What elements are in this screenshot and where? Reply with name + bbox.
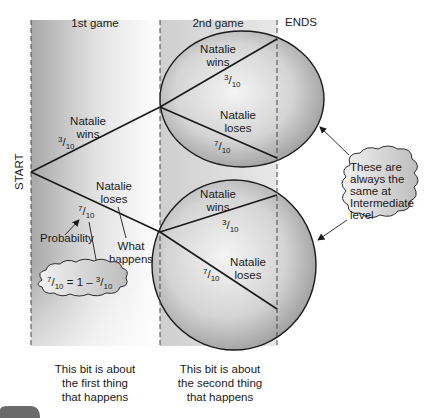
caption-second: This bit is about the second thing that … <box>160 362 280 404</box>
header-second-game: 2nd game <box>192 17 243 29</box>
first-loses-label: Natalie <box>96 180 132 192</box>
svg-text:Intermediate: Intermediate <box>350 197 414 209</box>
bottom-loses-label: Natalie <box>230 256 266 268</box>
svg-text:These are: These are <box>350 161 402 173</box>
second-game-top-ellipse <box>160 31 324 167</box>
top-wins-label-2: wins <box>205 56 229 68</box>
header-first-game: 1st game <box>71 17 118 29</box>
bottom-loses-label-2: loses <box>235 269 262 281</box>
tree-diagram: 1st game 2nd game ENDS START Natalie win… <box>0 0 430 418</box>
first-wins-label: Natalie <box>70 115 106 127</box>
svg-text:level: level <box>350 209 374 221</box>
svg-text:always the: always the <box>350 173 404 185</box>
what-happens-label: What <box>118 240 146 252</box>
header-ends: ENDS <box>285 16 317 28</box>
start-label: START <box>13 153 25 190</box>
page-tab <box>0 406 40 418</box>
top-wins-label: Natalie <box>200 43 236 55</box>
bottom-wins-label: Natalie <box>200 188 236 200</box>
top-loses-label-2: loses <box>225 122 252 134</box>
top-loses-label: Natalie <box>220 109 256 121</box>
svg-text:same at: same at <box>350 185 392 197</box>
probability-label: Probability <box>40 232 94 244</box>
first-loses-label-2: loses <box>101 193 128 205</box>
bottom-wins-label-2: wins <box>205 201 229 213</box>
first-wins-label-2: wins <box>75 128 99 140</box>
caption-first: This bit is about the first thing that h… <box>35 362 155 404</box>
